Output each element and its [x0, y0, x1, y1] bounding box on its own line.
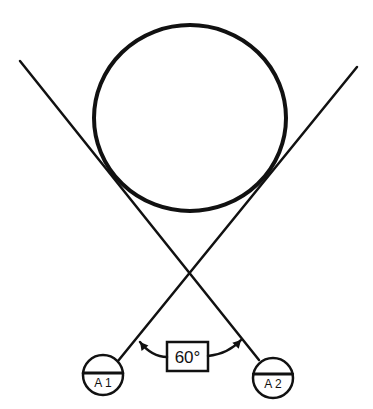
marker-a1-label: A 1	[94, 376, 112, 390]
tangent-line-right	[118, 67, 357, 361]
marker-a1: A 1	[83, 355, 123, 395]
diagram-canvas: 60° A 1 A 2	[0, 0, 373, 409]
marker-a2-label: A 2	[264, 377, 282, 391]
tangent-line-left	[20, 61, 259, 360]
main-circle	[94, 25, 286, 211]
angle-label: 60°	[167, 342, 208, 371]
angle-label-text: 60°	[175, 348, 201, 367]
marker-a2: A 2	[253, 358, 293, 398]
